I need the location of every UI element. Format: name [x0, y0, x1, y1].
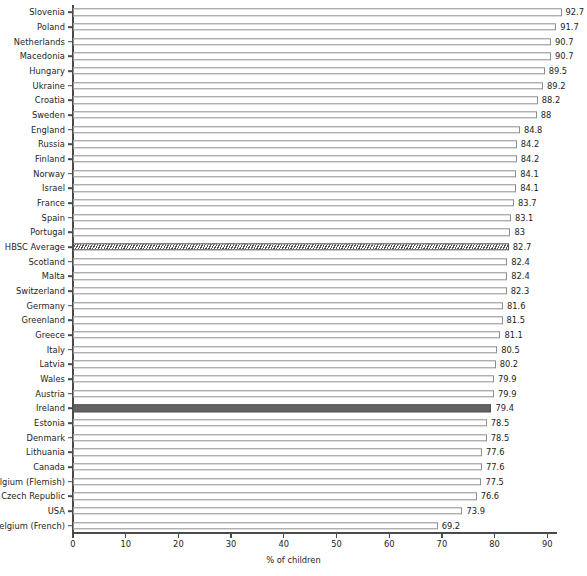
bar-value-label: 82.7	[513, 243, 531, 251]
category-label: Slovenia	[29, 8, 65, 16]
y-axis-tick	[68, 114, 73, 116]
bar	[73, 331, 500, 338]
y-axis-tick	[68, 363, 73, 365]
category-label: Hungary	[29, 67, 65, 75]
bar-value-label: 84.2	[521, 140, 539, 148]
category-label: Belgium (Flemish)	[0, 477, 65, 485]
bar-row: Scotland82.4	[0, 254, 587, 269]
bar-row: Germany81.6	[0, 298, 587, 313]
bar-value-label: 77.6	[486, 448, 504, 456]
category-label: Greece	[35, 331, 65, 339]
bar-value-label: 83.7	[518, 199, 536, 207]
bar-row: Netherlands90.7	[0, 34, 587, 49]
bar-row: England84.8	[0, 122, 587, 137]
category-label: Latvia	[39, 360, 65, 368]
category-label: Poland	[37, 23, 65, 31]
bar	[73, 419, 487, 426]
y-axis-tick	[68, 334, 73, 336]
bar-value-label: 78.5	[491, 433, 509, 441]
bar-value-label: 79.9	[498, 389, 516, 397]
bar	[73, 97, 538, 104]
bar	[73, 493, 477, 500]
y-axis-tick	[68, 305, 73, 307]
category-label: Ukraine	[33, 81, 65, 89]
category-label: Israel	[42, 184, 65, 192]
bar-row: Belgium (Flemish)77.5	[0, 474, 587, 489]
category-label: Spain	[42, 213, 65, 221]
x-axis-tick	[178, 533, 179, 538]
bar-row: Canada77.6	[0, 460, 587, 475]
bar-value-label: 91.7	[560, 23, 578, 31]
x-axis-tick-label: 30	[226, 540, 237, 548]
bar-row: Finland84.2	[0, 152, 587, 167]
x-axis-tick-label: 90	[542, 540, 553, 548]
category-label: Estonia	[34, 419, 65, 427]
x-axis-tick-label: 60	[384, 540, 395, 548]
y-axis-tick	[68, 217, 73, 219]
bar-row: HBSC Average82.7	[0, 240, 587, 255]
y-axis-tick	[68, 378, 73, 380]
category-label: France	[37, 199, 65, 207]
bar-chart: Slovenia92.7Poland91.7Netherlands90.7Mac…	[0, 0, 587, 576]
bar-value-label: 89.2	[547, 81, 565, 89]
bar-row: Poland91.7	[0, 20, 587, 35]
x-axis-tick	[230, 533, 231, 538]
category-label: Russia	[38, 140, 65, 148]
bar-row: France83.7	[0, 196, 587, 211]
bar	[73, 449, 482, 456]
y-axis-tick	[68, 525, 73, 527]
y-axis-tick	[68, 246, 73, 248]
category-label: Denmark	[27, 433, 65, 441]
bar	[73, 478, 481, 485]
y-axis-tick	[68, 70, 73, 72]
category-label: Scotland	[29, 257, 65, 265]
bar-value-label: 76.6	[481, 492, 499, 500]
x-axis-tick-label: 80	[489, 540, 500, 548]
y-axis-tick	[68, 11, 73, 13]
bar	[73, 522, 438, 529]
bar-value-label: 69.2	[442, 521, 460, 529]
bar-row: Greenland81.5	[0, 313, 587, 328]
x-axis-tick	[547, 533, 548, 538]
bar-row: Latvia80.2	[0, 357, 587, 372]
category-label: Netherlands	[14, 37, 65, 45]
y-axis-tick	[68, 143, 73, 145]
bar-value-label: 73.9	[466, 507, 484, 515]
bar	[73, 463, 482, 470]
x-axis-tick	[389, 533, 390, 538]
bar	[73, 346, 497, 353]
y-axis-tick	[68, 407, 73, 409]
bar	[73, 258, 507, 265]
y-axis-tick	[68, 466, 73, 468]
x-axis-tick-label: 10	[120, 540, 131, 548]
bar-row: Malta82.4	[0, 269, 587, 284]
x-axis-tick	[125, 533, 126, 538]
bar	[73, 126, 520, 133]
bar-value-label: 82.4	[511, 257, 529, 265]
y-axis-tick	[68, 422, 73, 424]
category-label: Italy	[47, 345, 65, 353]
category-label: Ireland	[36, 404, 65, 412]
bar-value-label: 82.3	[511, 287, 529, 295]
y-axis-tick	[68, 393, 73, 395]
category-label: England	[31, 125, 65, 133]
x-axis-tick-label: 50	[331, 540, 342, 548]
y-axis-tick	[68, 481, 73, 483]
bar-value-label: 77.5	[485, 477, 503, 485]
x-axis-tick	[494, 533, 495, 538]
bar-row: Switzerland82.3	[0, 284, 587, 299]
bar-value-label: 81.6	[507, 301, 525, 309]
bar-value-label: 88	[541, 111, 552, 119]
category-label: Austria	[35, 389, 65, 397]
category-label: Czech Republic	[1, 492, 65, 500]
bar-row: Lithuania77.6	[0, 445, 587, 460]
category-label: USA	[48, 507, 65, 515]
bar	[73, 67, 545, 74]
y-axis-tick	[68, 231, 73, 233]
bar-row: Wales79.9	[0, 372, 587, 387]
category-label: Belgium (French)	[0, 521, 65, 529]
x-axis-tick-label: 20	[173, 540, 184, 548]
category-label: Greenland	[22, 316, 66, 324]
y-axis-tick	[68, 451, 73, 453]
category-label: Finland	[35, 155, 65, 163]
